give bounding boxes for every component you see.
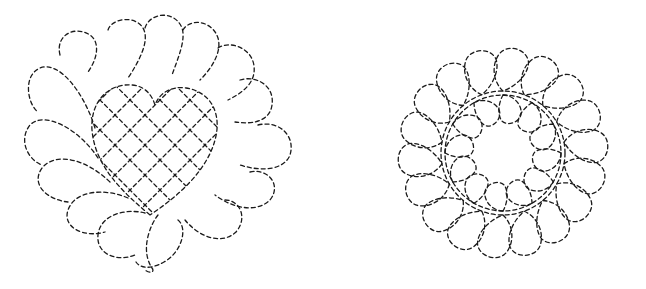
wreath-spine-inner [445, 95, 561, 211]
wreath-outer-feathers [395, 44, 611, 263]
left-motif-feathered-heart [0, 15, 320, 272]
crosshatch-grid [0, 20, 320, 250]
right-motif-feathered-wreath [395, 44, 611, 263]
quilting-pattern-canvas [0, 0, 646, 289]
left-feather-plumes [25, 15, 292, 272]
wreath-spine-outer [441, 91, 565, 215]
